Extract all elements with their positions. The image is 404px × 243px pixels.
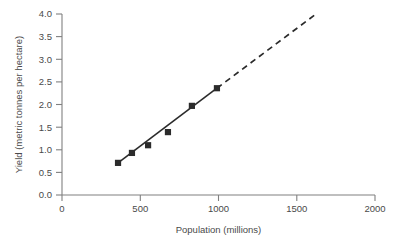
data-point-marker [165,129,171,135]
data-point-marker [115,160,121,166]
y-tick-label: 1.0 [39,144,52,155]
data-point-marker [189,103,195,109]
y-axis-title: Yield (metric tonnes per hectare) [13,36,24,173]
x-tick-label: 2000 [364,203,385,214]
y-tick-label: 0.5 [39,167,52,178]
y-tick-label: 4.0 [39,8,52,19]
y-tick-label: 2.0 [39,99,52,110]
y-tick-label: 2.5 [39,76,52,87]
data-point-marker [214,85,220,91]
data-point-marker [129,150,135,156]
x-tick-label: 1000 [208,203,229,214]
y-tick-label: 3.0 [39,54,52,65]
extrapolation-line [217,14,316,88]
y-tick-label: 3.5 [39,31,52,42]
x-tick-label: 0 [59,203,64,214]
x-axis-ticks: 0 500 1000 1500 2000 [59,195,385,214]
data-point-marker [145,142,151,148]
y-tick-label: 1.5 [39,122,52,133]
y-tick-label: 0.0 [39,189,52,200]
x-tick-label: 1500 [286,203,307,214]
figure-caption-partial [232,228,402,239]
y-axis-ticks: 0.0 0.5 1.0 1.5 2.0 2.5 3.0 3.5 4.0 [39,8,62,200]
chart-figure: 0.0 0.5 1.0 1.5 2.0 2.5 3.0 3.5 4.0 0 50… [0,0,404,243]
chart-plot-area: 0.0 0.5 1.0 1.5 2.0 2.5 3.0 3.5 4.0 0 50… [0,0,404,243]
x-tick-label: 500 [132,203,148,214]
